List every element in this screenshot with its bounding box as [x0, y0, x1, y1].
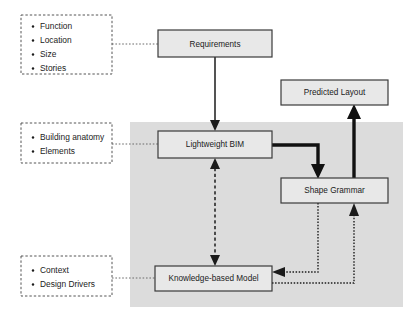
box-shape-grammar[interactable]: Shape Grammar [281, 178, 388, 203]
workflow-diagram: Requirements Predicted Layout Lightweigh… [0, 0, 418, 320]
bullet-icon [32, 53, 34, 55]
note-item-function: Function [40, 21, 72, 31]
note-item-elements: Elements [40, 146, 75, 156]
note-item-stories: Stories [40, 63, 66, 73]
box-requirements-label: Requirements [190, 40, 241, 49]
bullet-icon [32, 39, 34, 41]
note-item-design-drivers: Design Drivers [40, 279, 95, 289]
box-predicted-layout-label: Predicted Layout [304, 88, 366, 97]
bullet-icon [32, 150, 34, 152]
diagram-canvas: Requirements Predicted Layout Lightweigh… [0, 0, 418, 320]
note-box-lightweight: Building anatomy Elements [21, 123, 112, 163]
note-item-context: Context [40, 265, 70, 275]
note-item-location: Location [40, 35, 72, 45]
box-lightweight-bim[interactable]: Lightweight BIM [158, 131, 272, 158]
bullet-icon [32, 269, 34, 271]
bullet-icon [32, 283, 34, 285]
box-shape-grammar-label: Shape Grammar [304, 186, 365, 195]
note-item-size: Size [40, 49, 57, 59]
box-requirements[interactable]: Requirements [158, 30, 272, 57]
box-knowledge-based-model[interactable]: Knowledge-based Model [155, 266, 272, 291]
note-item-building-anatomy: Building anatomy [40, 132, 105, 142]
box-predicted-layout[interactable]: Predicted Layout [281, 80, 388, 105]
shape-grammar-to-predicted-arrowhead [347, 104, 361, 119]
note-box-knowledge: Context Design Drivers [21, 256, 112, 296]
bullet-icon [32, 136, 34, 138]
bullet-icon [32, 67, 34, 69]
box-lightweight-bim-label: Lightweight BIM [186, 140, 244, 149]
note-box-requirements: Function Location Size Stories [21, 15, 112, 74]
bullet-icon [32, 25, 34, 27]
box-knowledge-based-model-label: Knowledge-based Model [168, 274, 258, 283]
